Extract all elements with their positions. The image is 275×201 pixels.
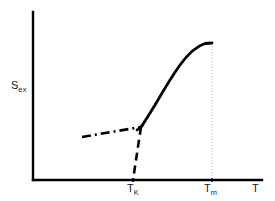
y-axis-label-subscript: ex: [18, 85, 26, 94]
tk-symbol: T: [127, 182, 134, 194]
figure-root: Sex TK Tm T: [0, 0, 275, 201]
x-tick-label-tm: Tm: [204, 183, 217, 194]
plot-canvas: [0, 0, 275, 201]
extrapolated-supercooled-dashed-curve: [133, 127, 141, 180]
tm-subscript: m: [211, 188, 217, 197]
y-axis-label: Sex: [11, 80, 27, 91]
glass-branch-dash-dot-curve: [82, 127, 141, 137]
x-tick-label-tk: TK: [127, 183, 139, 194]
equilibrium-liquid-solid-curve: [141, 43, 212, 127]
x-axis-label: T: [252, 183, 259, 194]
tk-subscript: K: [134, 188, 139, 197]
tm-symbol: T: [204, 182, 211, 194]
